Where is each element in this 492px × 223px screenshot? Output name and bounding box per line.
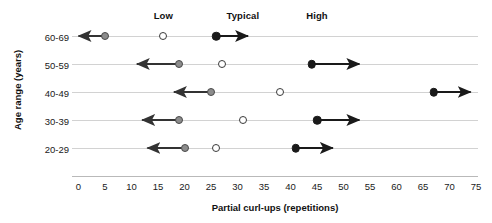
x-tick-label-20: 20 (179, 181, 190, 192)
x-tick-label-60: 60 (391, 181, 402, 192)
x-tick-label-45: 45 (312, 181, 323, 192)
marker-typical-20-29 (212, 144, 220, 152)
gridline-row-0 (72, 36, 478, 37)
x-tick-label-5: 5 (102, 181, 107, 192)
legend-label-high: High (306, 10, 328, 21)
marker-high-60-69 (212, 32, 221, 41)
marker-low-50-59 (175, 60, 183, 68)
plot-area: Low Typical High Age range (years) 60-69… (0, 0, 492, 223)
marker-typical-30-39 (239, 116, 247, 124)
x-axis-line (72, 176, 478, 177)
marker-low-20-29 (181, 144, 189, 152)
marker-typical-40-49 (276, 88, 284, 96)
x-tick-label-15: 15 (153, 181, 164, 192)
marker-low-30-39 (175, 116, 183, 124)
marker-low-60-69 (101, 32, 109, 40)
x-tick-label-55: 55 (365, 181, 376, 192)
marker-high-20-29 (292, 144, 301, 153)
x-tick-label-75: 75 (471, 181, 482, 192)
marker-high-30-39 (313, 116, 322, 125)
x-tick-label-0: 0 (76, 181, 81, 192)
y-tick-label-1: 50-59 (33, 60, 69, 71)
x-tick-label-70: 70 (444, 181, 455, 192)
x-tick-label-50: 50 (338, 181, 349, 192)
y-tick-label-2: 40-49 (33, 88, 69, 99)
x-tick-label-65: 65 (418, 181, 429, 192)
gridline-row-3 (72, 120, 478, 121)
y-tick-label-3: 30-39 (33, 116, 69, 127)
marker-high-40-49 (429, 88, 438, 97)
gridline-row-1 (72, 64, 478, 65)
marker-typical-60-69 (159, 32, 167, 40)
marker-low-40-49 (207, 88, 215, 96)
partial-curlups-chart: Low Typical High Age range (years) 60-69… (0, 0, 492, 223)
y-axis-title: Age range (years) (12, 50, 23, 130)
y-tick-label-0: 60-69 (33, 32, 69, 43)
marker-typical-50-59 (218, 60, 226, 68)
x-tick-label-35: 35 (259, 181, 270, 192)
x-tick-label-25: 25 (206, 181, 217, 192)
x-axis-title: Partial curl-ups (repetitions) (212, 202, 339, 213)
legend-label-low: Low (154, 10, 173, 21)
legend-label-typical: Typical (226, 10, 259, 21)
marker-high-50-59 (307, 60, 316, 69)
x-tick-label-10: 10 (126, 181, 137, 192)
x-tick-label-40: 40 (285, 181, 296, 192)
y-tick-label-4: 20-29 (33, 144, 69, 155)
gridline-row-4 (72, 148, 478, 149)
x-tick-label-30: 30 (232, 181, 243, 192)
